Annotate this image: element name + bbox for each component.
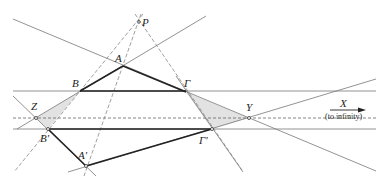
point-a1 — [85, 165, 88, 168]
label-gamma: Γ — [183, 77, 191, 89]
label-a: A — [114, 52, 122, 64]
side-agamma — [123, 66, 186, 92]
label-x: X — [339, 97, 348, 109]
point-b1 — [47, 128, 50, 131]
label-y: Y — [246, 101, 254, 113]
point-gamma1 — [211, 128, 214, 131]
label-gamma1: Γ′ — [198, 134, 208, 146]
line-gamma-gamma1-ext — [176, 76, 243, 172]
shaded-triangle-ygg — [186, 92, 249, 129]
point-p — [138, 21, 141, 24]
point-z — [35, 117, 38, 120]
label-b: B — [72, 77, 79, 89]
shaded-triangle-zbb — [36, 91, 80, 129]
side-ab — [80, 66, 123, 91]
point-y — [248, 117, 251, 120]
label-a1: A′ — [77, 149, 88, 161]
label-to-infinity: (to infinity) — [325, 112, 362, 121]
desargues-diagram: P A B Γ Z Y B′ Γ′ A′ X (to infinity) — [0, 0, 388, 181]
label-b1: B′ — [40, 132, 50, 144]
side-a1gamma1 — [86, 129, 212, 166]
label-p: P — [141, 16, 149, 28]
label-z: Z — [31, 100, 38, 112]
